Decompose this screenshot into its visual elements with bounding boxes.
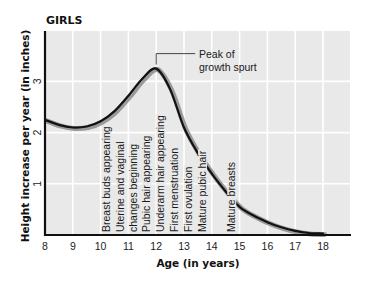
growth-chart: Breast buds appearingUterine and vaginal… [0, 0, 367, 282]
event-label: Mature breasts [225, 162, 237, 232]
event-label: First menstruation [168, 148, 180, 232]
event-label: Underarm hair appearing [154, 115, 166, 232]
x-tick-label: 11 [123, 240, 134, 252]
event-label: Mature pubic hair [196, 150, 208, 232]
x-tick-labels: 89101112131415161718 [42, 240, 329, 252]
event-label: First ovulation [182, 166, 194, 232]
y-tick-label: 3 [31, 78, 43, 84]
peak-annotation-line-1: Peak of [199, 48, 235, 60]
event-label: Breast buds appearing [100, 126, 112, 232]
y-tick-label: 2 [31, 130, 43, 136]
event-label: Pubic hair appearing [140, 136, 152, 232]
chart-title: GIRLS [46, 14, 83, 27]
event-label: changes beginning [127, 144, 139, 232]
x-tick-label: 8 [42, 240, 48, 252]
x-tick-label: 9 [70, 240, 76, 252]
y-tick-label: 1 [31, 181, 43, 187]
x-axis-title: Age (in years) [156, 257, 239, 269]
x-tick-label: 17 [289, 240, 301, 252]
x-tick-label: 16 [262, 240, 274, 252]
x-tick-label: 18 [317, 240, 329, 252]
y-tick-labels: 123 [31, 78, 43, 186]
x-tick-label: 15 [234, 240, 246, 252]
y-axis-title: Height increase per year (in inches) [19, 30, 31, 243]
x-tick-label: 13 [178, 240, 190, 252]
x-tick-label: 12 [150, 240, 162, 252]
x-tick-label: 14 [206, 240, 218, 252]
event-label: Uterine and vaginal [114, 142, 126, 232]
peak-annotation-line-2: growth spurt [199, 61, 257, 73]
x-tick-label: 10 [95, 240, 107, 252]
